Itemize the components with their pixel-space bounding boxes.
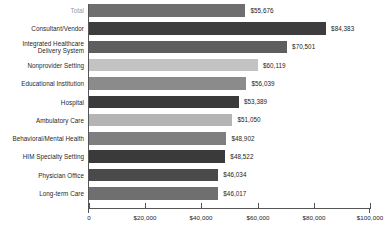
bar-chart: Total$55,676Consultant/Vendor$84,383Inte… (0, 0, 387, 237)
table-row: Total$55,676 (0, 4, 387, 22)
category-label: Total (70, 7, 84, 15)
bar (89, 96, 239, 109)
table-row: Physician Office$46,034 (0, 169, 387, 187)
bar (89, 22, 326, 35)
bar-value-label: $60,119 (263, 62, 286, 69)
category-label: Hospital (61, 99, 84, 107)
bar-value-label: $48,522 (230, 153, 253, 160)
axis-tick-label: $80,000 (302, 214, 325, 221)
axis-tick (145, 203, 146, 209)
value-axis-line (88, 208, 370, 209)
table-row: Consultant/Vendor$84,383 (0, 22, 387, 40)
category-label: HIM Specialty Setting (23, 153, 84, 161)
bar (89, 77, 246, 90)
bar (89, 41, 287, 54)
bar-value-label: $53,389 (244, 98, 267, 105)
bar-value-label: $70,501 (292, 43, 315, 50)
category-label: Long-term Care (39, 190, 84, 198)
bar-rows: Total$55,676Consultant/Vendor$84,383Inte… (0, 4, 387, 208)
table-row: Long-term Care$46,017 (0, 187, 387, 205)
axis-tick-label: 0 (87, 214, 91, 221)
table-row: Behavioral/Mental Health$48,902 (0, 132, 387, 150)
axis-tick (201, 203, 202, 209)
category-label: Physician Office (38, 172, 84, 180)
bar-value-label: $56,039 (251, 80, 274, 87)
axis-tick-label: $40,000 (189, 214, 212, 221)
bar-value-label: $55,676 (250, 7, 273, 14)
table-row: HIM Specialty Setting$48,522 (0, 150, 387, 168)
category-label: Educational Institution (21, 80, 84, 88)
bar (89, 187, 218, 200)
table-row: Ambulatory Care$51,050 (0, 114, 387, 132)
axis-tick (258, 203, 259, 209)
category-label: Ambulatory Care (36, 117, 84, 125)
category-label: Nonprovider Setting (27, 62, 84, 70)
bar-value-label: $48,902 (231, 135, 254, 142)
axis-tick (314, 203, 315, 209)
axis-tick-label: $20,000 (133, 214, 156, 221)
category-label: Integrated Healthcare Delivery System (22, 40, 84, 55)
table-row: Integrated Healthcare Delivery System$70… (0, 41, 387, 59)
bar-value-label: $46,034 (223, 171, 246, 178)
axis-tick (370, 203, 371, 209)
axis-tick-label: $100,000 (357, 214, 384, 221)
bar (89, 4, 245, 17)
bar (89, 150, 225, 163)
category-label: Behavioral/Mental Health (12, 135, 84, 143)
axis-tick-label: $60,000 (246, 214, 269, 221)
bar-value-label: $46,017 (223, 190, 246, 197)
bar (89, 114, 232, 127)
bar (89, 132, 226, 145)
category-axis-line (88, 4, 89, 208)
bar-value-label: $84,383 (331, 25, 354, 32)
category-label: Consultant/Vendor (31, 25, 84, 33)
axis-tick (89, 203, 90, 209)
bar (89, 169, 218, 182)
plot-area: Total$55,676Consultant/Vendor$84,383Inte… (0, 0, 387, 237)
bar-value-label: $51,050 (237, 116, 260, 123)
table-row: Hospital$53,389 (0, 96, 387, 114)
table-row: Educational Institution$56,039 (0, 77, 387, 95)
bar (89, 59, 258, 72)
table-row: Nonprovider Setting$60,119 (0, 59, 387, 77)
